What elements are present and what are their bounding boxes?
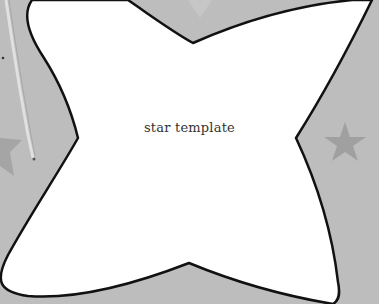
background-art (0, 0, 379, 304)
dot-decoration (2, 57, 5, 60)
star-template-image: star template (0, 0, 379, 304)
stick-tip (33, 158, 36, 161)
template-label: star template (0, 120, 379, 135)
